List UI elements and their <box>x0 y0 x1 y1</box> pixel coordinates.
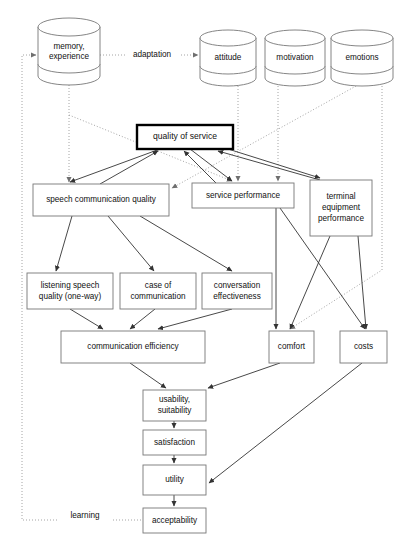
box-node-conversation-effectiveness: conversationeffectiveness <box>202 273 272 309</box>
box-node-usability-suitability: usability,suitability <box>143 390 206 421</box>
box-label: conversation <box>214 281 261 290</box>
cylinder-node-motivation: motivation <box>265 30 325 86</box>
solid-edge-sp-to-qos <box>184 151 216 183</box>
cylinder-top-ellipse <box>331 30 393 46</box>
box-label: listening speech <box>41 281 100 290</box>
solid-edge-scq-to-lsq <box>56 216 72 271</box>
cylinder-node-attitude: attitude <box>200 30 256 86</box>
solid-edge-tep-to-qos <box>218 151 320 180</box>
cylinder-label: motivation <box>276 53 314 62</box>
edge-label-adaptation: adaptation <box>133 50 172 59</box>
cylinder-top-ellipse <box>200 30 256 46</box>
box-label: quality (one-way) <box>39 292 102 301</box>
box-label: communication efficiency <box>87 342 179 351</box>
box-label: acceptability <box>152 516 198 525</box>
box-node-costs: costs <box>340 331 387 363</box>
box-node-utility: utility <box>143 465 206 495</box>
box-label: effectiveness <box>213 292 261 301</box>
solid-edge-scq-to-coc <box>108 216 154 271</box>
solid-edge-ce-to-ce2 <box>158 309 232 329</box>
box-node-case-of-communication: case ofcommunication <box>120 273 196 309</box>
box-label: communication <box>130 292 186 301</box>
cylinder-node-memory: memory,experience <box>38 18 100 85</box>
box-label: terminal <box>326 192 355 201</box>
solid-edge-qos-to-sp <box>190 149 232 181</box>
solid-edge-costs-to-util <box>209 363 362 483</box>
cylinder-node-layer: memory,experienceattitudemotivationemoti… <box>38 18 393 86</box>
solid-edge-scq-to-ce <box>140 216 232 271</box>
solid-edge-qos-to-tep <box>228 149 320 178</box>
box-label: service performance <box>206 191 281 200</box>
qos-taxonomy-diagram: memory,experienceattitudemotivationemoti… <box>0 0 403 544</box>
box-node-acceptability: acceptability <box>143 508 206 533</box>
cylinder-top-ellipse <box>265 30 325 46</box>
box-node-communication-efficiency: communication efficiency <box>61 331 205 363</box>
solid-edge-tep-to-costs <box>358 236 366 329</box>
box-label: equipment <box>322 203 361 212</box>
box-label: speech communication quality <box>46 195 157 204</box>
box-label: satisfaction <box>154 438 195 447</box>
cylinder-top-ellipse <box>38 18 100 36</box>
solid-edge-comfort-to-us <box>208 363 280 388</box>
box-node-speech-communication-quality: speech communication quality <box>33 184 169 216</box>
solid-edge-ce2-to-us <box>130 363 166 388</box>
box-label: utility <box>165 475 185 484</box>
box-label: suitability <box>158 406 193 415</box>
cylinder-node-emotions: emotions <box>331 30 393 86</box>
diagram-canvas: memory,experienceattitudemotivationemoti… <box>0 0 403 544</box>
cylinder-label: emotions <box>345 53 378 62</box>
solid-edge-coc-to-ce2 <box>130 309 155 329</box>
cylinder-label: attitude <box>215 53 242 62</box>
edge-label-learning: learning <box>70 511 100 520</box>
box-node-satisfaction: satisfaction <box>143 430 206 455</box>
cylinder-label: experience <box>49 52 90 61</box>
box-label: usability, <box>159 395 190 404</box>
box-node-service-performance: service performance <box>192 183 294 208</box>
solid-edge-qos-to-scq <box>70 149 160 182</box>
solid-edge-lsq-to-ce2 <box>70 309 103 329</box>
box-label: case of <box>145 281 172 290</box>
box-node-layer: quality of servicespeech communication q… <box>27 125 387 533</box>
box-node-listening-speech-quality: listening speechquality (one-way) <box>27 273 113 309</box>
box-node-terminal-equipment-performance: terminalequipmentperformance <box>310 180 372 236</box>
box-label: costs <box>354 342 373 351</box>
box-label: quality of service <box>153 131 217 141</box>
box-label: comfort <box>278 342 306 351</box>
box-node-quality-of-service: quality of service <box>137 125 233 149</box>
cylinder-label: memory, <box>53 42 84 51</box>
box-node-comfort: comfort <box>269 331 314 363</box>
box-label: performance <box>318 214 364 223</box>
